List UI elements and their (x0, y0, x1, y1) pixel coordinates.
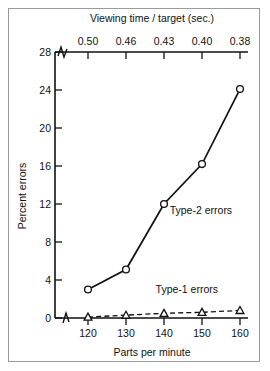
ytick-label: 0 (45, 312, 51, 324)
series-line-type-2-errors (88, 89, 240, 289)
yaxis-title: Percent errors (16, 163, 28, 230)
ytick-label: 20 (39, 122, 51, 134)
data-point-marker (123, 266, 130, 273)
chart-plot-area: Viewing time / target (sec.) 0.50 0.46 0… (0, 0, 270, 371)
xtick-label: 120 (79, 327, 97, 339)
ytick-label: 12 (39, 198, 51, 210)
series-label-type-2-errors: Type-2 errors (170, 204, 232, 216)
ytick-label: 28 (39, 46, 51, 58)
xaxis-title: Parts per minute (113, 346, 190, 358)
yaxis-ticks (55, 52, 62, 318)
xaxis-tick-labels: 120 130 140 150 160 (79, 327, 249, 339)
figure-container: Viewing time / target (sec.) 0.50 0.46 0… (0, 0, 270, 371)
data-point-marker (161, 201, 168, 208)
xtick-label: 150 (193, 327, 211, 339)
secondary-xaxis-title: Viewing time / target (sec.) (90, 12, 214, 24)
ytick-label: 16 (39, 160, 51, 172)
secondary-xaxis-ticks (88, 52, 240, 59)
xtick-label: 160 (231, 327, 249, 339)
data-point-marker (160, 309, 168, 316)
yaxis-tick-labels: 0 4 8 12 16 20 24 28 (39, 46, 51, 324)
secondary-xtick-label: 0.40 (192, 35, 213, 47)
xaxis-ticks (88, 318, 240, 325)
xtick-label: 140 (155, 327, 173, 339)
secondary-xtick-label: 0.43 (154, 35, 175, 47)
data-point-marker (85, 286, 92, 293)
secondary-xtick-label: 0.46 (116, 35, 137, 47)
xtick-label: 130 (117, 327, 135, 339)
secondary-xaxis-tick-labels: 0.50 0.46 0.43 0.40 0.38 (78, 35, 251, 47)
ytick-label: 24 (39, 84, 51, 96)
ytick-label: 4 (45, 274, 51, 286)
series-markers-type-2-errors (85, 86, 244, 293)
secondary-xtick-label: 0.38 (230, 35, 251, 47)
ytick-label: 8 (45, 236, 51, 248)
data-point-marker (237, 86, 244, 93)
data-point-marker (199, 161, 206, 168)
secondary-xtick-label: 0.50 (78, 35, 99, 47)
series-label-type-1-errors: Type-1 errors (156, 283, 218, 295)
